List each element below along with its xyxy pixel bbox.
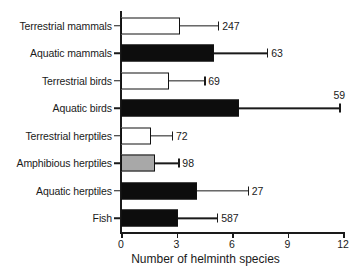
chart-row: Terrestrial herptiles72 <box>121 122 343 150</box>
error-bar-line <box>169 80 204 81</box>
category-tick <box>114 135 120 137</box>
x-axis-tick-label: 0 <box>118 238 124 250</box>
sample-size-label: 59 <box>333 89 345 101</box>
x-axis-tick-label: 9 <box>285 238 291 250</box>
bar <box>121 210 178 227</box>
category-tick <box>114 53 120 55</box>
category-label: Terrestrial birds <box>42 75 112 87</box>
sample-size-label: 69 <box>208 75 220 87</box>
bar <box>121 127 151 144</box>
error-bar-line <box>214 53 268 54</box>
category-tick <box>114 108 120 110</box>
bar <box>121 100 239 117</box>
category-tick <box>114 218 120 220</box>
x-axis-tick-label: 6 <box>229 238 235 250</box>
sample-size-label: 98 <box>182 157 194 169</box>
sample-size-label: 72 <box>176 130 188 142</box>
category-label: Aquatic herptiles <box>36 185 112 197</box>
category-label: Terrestrial herptiles <box>25 130 112 142</box>
error-bar-line <box>239 108 339 109</box>
category-tick <box>114 25 120 27</box>
sample-size-label: 27 <box>252 185 264 197</box>
chart-row: Amphibious herptiles98 <box>121 150 343 178</box>
error-bar-line <box>180 25 218 26</box>
bar <box>121 17 180 34</box>
chart-row: Aquatic birds59 <box>121 95 343 123</box>
chart-row: Aquatic herptiles27 <box>121 177 343 205</box>
bar <box>121 72 169 89</box>
error-bar-cap <box>267 49 268 58</box>
sample-size-label: 587 <box>221 212 239 224</box>
error-bar-cap <box>217 214 218 223</box>
chart-row: Aquatic mammals63 <box>121 40 343 68</box>
x-axis-tick-label: 3 <box>174 238 180 250</box>
error-bar-line <box>197 190 248 191</box>
category-label: Terrestrial mammals <box>19 20 112 32</box>
category-label: Fish <box>93 212 112 224</box>
sample-size-label: 63 <box>271 47 283 59</box>
x-axis-tick-label: 12 <box>337 238 349 250</box>
category-tick <box>114 80 120 82</box>
error-bar-line <box>155 163 178 164</box>
chart-row: Fish587 <box>121 205 343 233</box>
error-bar-cap <box>172 131 173 140</box>
chart-figure: Terrestrial mammals247Aquatic mammals63T… <box>0 0 361 274</box>
category-label: Amphibious herptiles <box>17 157 112 169</box>
x-axis-title: Number of helminth species <box>0 252 361 266</box>
category-label: Aquatic birds <box>53 102 112 114</box>
x-axis-title-text: Number of helminth species <box>131 252 280 266</box>
error-bar-cap <box>248 186 249 195</box>
error-bar-cap <box>178 159 179 168</box>
error-bar-cap <box>339 104 340 113</box>
error-bar-cap <box>218 21 219 30</box>
chart-row: Terrestrial birds69 <box>121 67 343 95</box>
error-bar-line <box>178 218 217 219</box>
bar <box>121 45 214 62</box>
error-bar-cap <box>204 76 205 85</box>
category-label: Aquatic mammals <box>30 47 112 59</box>
error-bar-line <box>151 135 172 136</box>
category-tick <box>114 190 120 192</box>
plot-area: Terrestrial mammals247Aquatic mammals63T… <box>121 12 343 232</box>
category-tick <box>114 163 120 165</box>
bar <box>121 182 197 199</box>
chart-row: Terrestrial mammals247 <box>121 12 343 40</box>
bar <box>121 155 155 172</box>
sample-size-label: 247 <box>222 20 240 32</box>
